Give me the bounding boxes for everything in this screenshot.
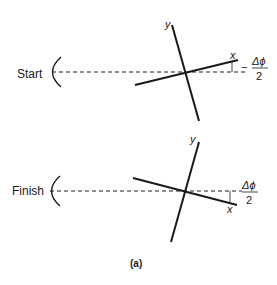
x-axis-label: x — [229, 49, 236, 61]
start-label: Start — [17, 67, 43, 81]
panel-start: Start y x − Δϕ 2 — [17, 18, 268, 121]
diagram-svg: Start y x − Δϕ 2 Finish y x Δϕ 2 (a) — [0, 0, 277, 285]
angle-numerator: Δϕ — [251, 55, 266, 67]
panel-finish: Finish y x Δϕ 2 — [12, 133, 258, 242]
rotation-diagram: Start y x − Δϕ 2 Finish y x Δϕ 2 (a) — [0, 0, 277, 285]
y-axis-label: y — [189, 133, 197, 145]
angle-numerator: Δϕ — [241, 179, 256, 191]
angle-denominator: 2 — [246, 194, 252, 206]
x-axis-label: x — [226, 203, 233, 215]
finish-label: Finish — [12, 184, 44, 198]
y-axis-label: y — [164, 18, 172, 30]
figure-caption: (a) — [130, 258, 142, 269]
angle-sign: − — [241, 61, 247, 73]
angle-denominator: 2 — [256, 70, 262, 82]
